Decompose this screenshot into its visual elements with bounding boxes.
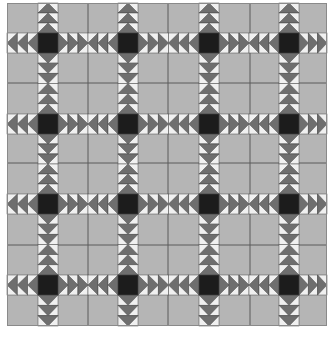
- star-center-square: [199, 114, 219, 134]
- star-center-square: [38, 114, 58, 134]
- star-center-square: [118, 114, 138, 134]
- star-center-square: [279, 275, 299, 295]
- star-center-square: [38, 33, 58, 53]
- star-center-square: [38, 194, 58, 214]
- star-center-square: [279, 114, 299, 134]
- star-center-square: [199, 33, 219, 53]
- star-center-square: [199, 275, 219, 295]
- star-center-square: [118, 33, 138, 53]
- star-center-square: [118, 194, 138, 214]
- star-center-square: [38, 275, 58, 295]
- star-center-square: [279, 33, 299, 53]
- star-center-square: [118, 275, 138, 295]
- quilt-pattern: [0, 0, 334, 342]
- star-center-square: [199, 194, 219, 214]
- star-center-square: [279, 194, 299, 214]
